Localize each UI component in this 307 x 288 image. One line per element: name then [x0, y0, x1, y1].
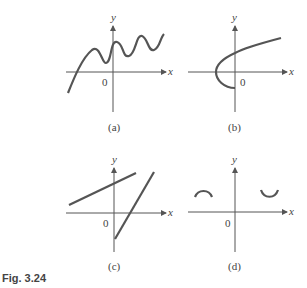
caption-b: (b) [228, 121, 241, 134]
x-label: x [288, 65, 294, 77]
curve-a [68, 34, 164, 93]
y-label: y [111, 153, 117, 165]
origin-label: 0 [103, 217, 109, 229]
arc-left-cap [195, 191, 212, 197]
panel-a: y x 0 (a) [66, 11, 173, 134]
panel-b: y x 0 (b) [188, 11, 294, 134]
x-label: x [167, 65, 173, 77]
figure-number: Fig. 3.24 [2, 272, 46, 284]
y-label: y [231, 153, 237, 165]
y-label: y [231, 11, 237, 23]
panel-d: y x 0 (d) [188, 153, 294, 273]
x-label: x [288, 205, 294, 217]
y-label: y [110, 11, 116, 23]
figure-canvas: y x 0 (a) y x 0 (b) y x 0 (c) y x 0 (d) [0, 0, 307, 288]
origin-label: 0 [225, 217, 231, 229]
line-1 [69, 173, 136, 205]
x-label: x [167, 206, 173, 218]
panel-c: y x 0 (c) [66, 153, 173, 273]
arc-right-cup [261, 190, 278, 197]
origin-label: 0 [102, 76, 108, 88]
caption-c: (c) [108, 260, 121, 273]
caption-d: (d) [228, 260, 241, 273]
origin-label: 0 [240, 76, 246, 88]
line-2 [115, 172, 154, 239]
curve-b [216, 38, 281, 88]
caption-a: (a) [108, 121, 121, 134]
